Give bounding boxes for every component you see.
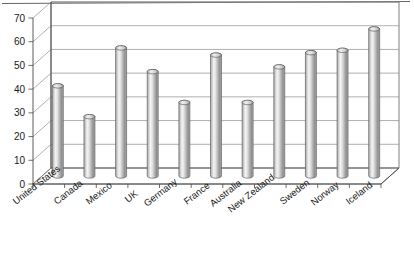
ytick-label-10: 10 bbox=[14, 155, 26, 166]
value-axis-labels: 0 10 20 30 40 50 60 70 bbox=[14, 13, 26, 190]
gridline-60 bbox=[33, 26, 399, 42]
ytick-label-70: 70 bbox=[14, 13, 26, 24]
bar-uk[interactable] bbox=[147, 69, 158, 178]
bar-mexico[interactable] bbox=[116, 46, 127, 178]
bar-norway[interactable] bbox=[337, 48, 348, 178]
bar-iceland[interactable] bbox=[369, 27, 380, 178]
gridline-70 bbox=[33, 2, 399, 18]
chart-canvas: 0 10 20 30 40 50 60 70 bbox=[0, 0, 414, 254]
ytick-label-60: 60 bbox=[14, 36, 26, 47]
bar-new-zealand[interactable] bbox=[274, 65, 285, 178]
ytick-label-30: 30 bbox=[14, 107, 26, 118]
xtick-label-uk: UK bbox=[122, 187, 140, 204]
bar-germany[interactable] bbox=[179, 100, 190, 178]
ytick-label-40: 40 bbox=[14, 84, 26, 95]
ytick-label-50: 50 bbox=[14, 60, 26, 71]
bar-sweden[interactable] bbox=[305, 50, 316, 178]
bar-canada[interactable] bbox=[84, 115, 95, 179]
value-axis-ticks bbox=[29, 18, 34, 184]
bar-chart: 0 10 20 30 40 50 60 70 bbox=[0, 0, 414, 254]
ytick-label-20: 20 bbox=[14, 131, 26, 142]
bar-france[interactable] bbox=[211, 53, 222, 178]
bar-australia[interactable] bbox=[242, 100, 253, 178]
